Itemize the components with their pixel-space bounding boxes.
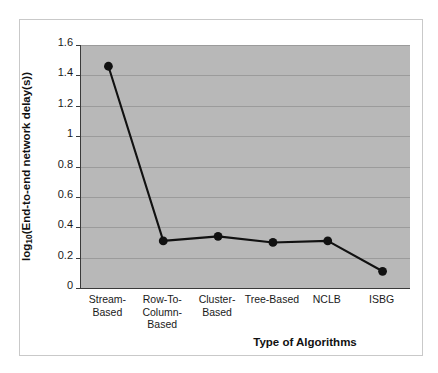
y-axis-tick-mark (76, 258, 80, 259)
data-point-marker (269, 238, 278, 247)
data-point-marker (104, 62, 113, 71)
y-axis-tick-mark (76, 167, 80, 168)
y-axis-title-prefix: log (20, 244, 32, 261)
y-axis-tick-label: 1.4 (58, 67, 73, 78)
x-axis-tick-label: Tree-Based (245, 293, 299, 306)
data-series-layer (81, 45, 410, 288)
y-axis-tick-label: 0.8 (58, 159, 73, 170)
y-axis-tick-label: 0.2 (58, 250, 73, 261)
y-axis-tick-mark (76, 75, 80, 76)
line-chart: 1.61.41.210.80.60.40.20 log10(End-to-end… (20, 20, 422, 355)
y-axis-title-subscript: 10 (24, 234, 34, 243)
y-axis-tick-label: 1.6 (58, 37, 73, 48)
x-axis-tick-label: NCLB (313, 293, 341, 306)
y-axis-tick-mark (76, 227, 80, 228)
x-axis-tick-label: Cluster- Based (199, 293, 236, 318)
y-axis-title-suffix: (End-to-end network delay(s)) (20, 72, 32, 234)
y-axis-tick-label: 0.4 (58, 219, 73, 230)
chart-figure-frame: 1.61.41.210.80.60.40.20 log10(End-to-end… (19, 19, 423, 356)
x-axis-tick-label: ISBG (369, 293, 394, 306)
y-axis-tick-mark (76, 136, 80, 137)
y-axis-tick-label: 0.6 (58, 189, 73, 200)
y-axis-title: log10(End-to-end network delay(s)) (17, 45, 35, 288)
data-point-marker (214, 232, 223, 241)
x-axis-title: Type of Algorithms (195, 335, 415, 349)
y-axis-tick-mark (76, 106, 80, 107)
y-axis-tick-mark (76, 288, 80, 289)
data-point-marker (159, 237, 168, 246)
x-axis-tick-label: Stream- Based (89, 293, 126, 318)
y-axis-tick-mark (76, 45, 80, 46)
series-line (108, 66, 382, 271)
plot-area (80, 45, 410, 289)
y-axis-tick-label: 0 (67, 280, 73, 291)
y-axis-tick-mark (76, 197, 80, 198)
y-axis-tick-label: 1 (67, 128, 73, 139)
y-axis-tick-label: 1.2 (58, 98, 73, 109)
data-point-marker (378, 267, 387, 276)
x-axis-tick-label: Row-To- Column- Based (142, 293, 182, 331)
data-point-marker (323, 237, 332, 246)
